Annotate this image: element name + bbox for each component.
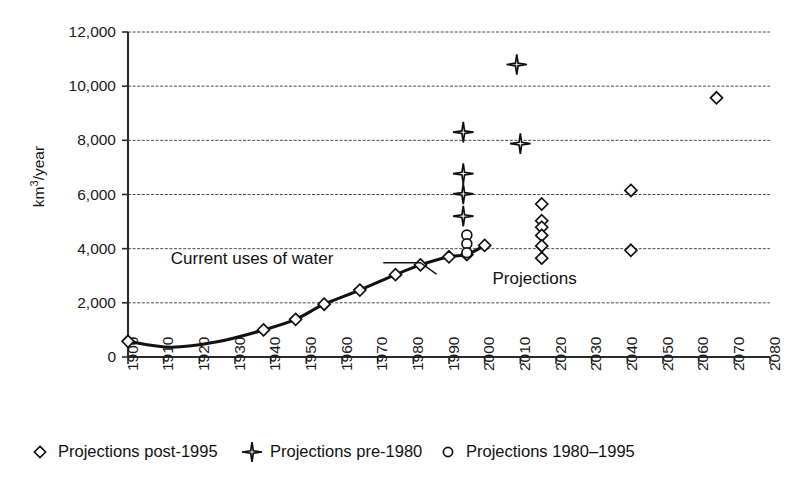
data-point-diamond bbox=[354, 284, 366, 296]
legend-label: Projections 1980–1995 bbox=[466, 442, 635, 460]
y-tick-label: 4,000 bbox=[77, 240, 116, 257]
data-point-diamond bbox=[625, 244, 637, 256]
x-tick-label: 2030 bbox=[587, 336, 604, 371]
x-tick-label: 1930 bbox=[231, 336, 248, 371]
chart-container: 02,0004,0006,0008,00010,00012,000 190019… bbox=[0, 0, 805, 478]
data-point-diamond bbox=[290, 313, 302, 325]
y-tick-label: 0 bbox=[107, 348, 116, 365]
data-point-star4 bbox=[453, 184, 473, 204]
x-tick-label: 1950 bbox=[302, 336, 319, 371]
data-point-diamond bbox=[318, 298, 330, 310]
y-axis-title-text: km3/year bbox=[28, 146, 47, 207]
annotation-projections: Projections bbox=[493, 269, 577, 288]
data-point-diamond bbox=[536, 252, 548, 264]
data-point-circle bbox=[462, 248, 472, 258]
data-point-diamond bbox=[536, 240, 548, 252]
y-tick-label: 8,000 bbox=[77, 131, 116, 148]
chart-annotations: Current uses of waterProjections bbox=[171, 249, 577, 288]
legend-label: Projections pre-1980 bbox=[270, 442, 422, 460]
data-point-diamond bbox=[536, 198, 548, 210]
chart-legend: Projections post-1995Projections pre-198… bbox=[34, 442, 634, 462]
x-tick-label: 1980 bbox=[409, 336, 426, 371]
x-tick-label: 2010 bbox=[516, 336, 533, 371]
x-tick-label: 2040 bbox=[623, 336, 640, 371]
x-tick-label: 1960 bbox=[338, 336, 355, 371]
series-projections-1980-1995 bbox=[462, 230, 472, 257]
x-tick-label: 2020 bbox=[552, 336, 569, 371]
legend-item-0[interactable]: Projections post-1995 bbox=[34, 442, 217, 460]
water-use-projections-chart: 02,0004,0006,0008,00010,00012,000 190019… bbox=[0, 0, 805, 478]
x-tick-label: 2000 bbox=[480, 336, 497, 371]
legend-marker-star4 bbox=[242, 442, 262, 462]
data-point-diamond bbox=[390, 269, 402, 281]
x-tick-label: 1920 bbox=[195, 336, 212, 371]
x-tick-label: 2080 bbox=[766, 336, 783, 371]
y-tick-label: 6,000 bbox=[77, 186, 116, 203]
legend-marker-circle bbox=[443, 447, 452, 456]
data-point-diamond bbox=[479, 239, 491, 251]
data-series bbox=[122, 54, 723, 347]
x-tick-label: 1970 bbox=[373, 336, 390, 371]
data-point-star4 bbox=[453, 163, 473, 183]
series-projections-post-1995 bbox=[536, 92, 723, 264]
x-tick-label: 1990 bbox=[445, 336, 462, 371]
x-tick-label: 2070 bbox=[730, 336, 747, 371]
x-tick-label: 1910 bbox=[159, 336, 176, 371]
annotation-current-uses-of-water: Current uses of water bbox=[171, 249, 334, 268]
y-axis-title: km3/year bbox=[28, 146, 47, 207]
x-tick-label: 2050 bbox=[659, 336, 676, 371]
legend-item-1[interactable]: Projections pre-1980 bbox=[242, 442, 422, 462]
y-tick-label: 12,000 bbox=[69, 23, 117, 40]
x-tick-label: 2060 bbox=[694, 336, 711, 371]
data-point-diamond bbox=[258, 324, 270, 336]
data-point-star4 bbox=[510, 133, 530, 153]
legend-item-2[interactable]: Projections 1980–1995 bbox=[443, 442, 634, 460]
x-tick-label: 1940 bbox=[266, 336, 283, 371]
data-point-star4 bbox=[507, 54, 527, 74]
data-point-diamond bbox=[711, 92, 723, 104]
y-tick-labels: 02,0004,0006,0008,00010,00012,000 bbox=[69, 23, 117, 365]
y-tick-label: 2,000 bbox=[77, 294, 116, 311]
data-point-diamond bbox=[443, 251, 455, 263]
y-tick-label: 10,000 bbox=[69, 77, 117, 94]
legend-label: Projections post-1995 bbox=[58, 442, 218, 460]
data-point-star4 bbox=[453, 122, 473, 142]
data-point-star4 bbox=[453, 206, 473, 226]
legend-marker-diamond bbox=[34, 446, 45, 457]
